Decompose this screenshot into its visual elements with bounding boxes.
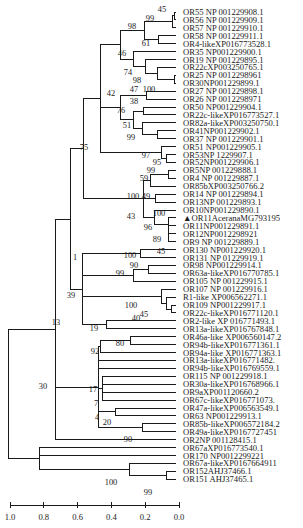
bootstrap-value: 100	[127, 192, 140, 201]
bootstrap-value: 47	[130, 85, 138, 94]
axis-tick-label: 0.6	[72, 512, 83, 522]
bootstrap-value: 49	[142, 192, 150, 201]
tree-branches	[8, 12, 176, 479]
bootstrap-value: 98	[133, 76, 141, 85]
bootstrap-value: 13	[52, 318, 60, 327]
bootstrap-value: 100	[105, 478, 118, 487]
bootstrap-value: 100	[153, 209, 166, 218]
bootstrap-value: 99	[146, 14, 154, 23]
bootstrap-value: 7	[94, 399, 98, 408]
bootstrap-value: 80	[116, 339, 124, 348]
scale-axis: 1.00.80.60.40.20.0	[5, 502, 185, 522]
bootstrap-value: 97	[142, 151, 150, 160]
bootstrap-value: 100	[124, 251, 137, 260]
bootstrap-labels: 4599986146749810042473876519997957599594…	[39, 5, 166, 497]
phylogenetic-tree: OR55 NP 001229908.1OR56 NP 001229909.1OR…	[0, 0, 303, 528]
bootstrap-value: 61	[142, 39, 150, 48]
bootstrap-value: 100	[143, 85, 156, 94]
bootstrap-value: 92	[91, 347, 99, 356]
bootstrap-value: 96	[144, 223, 152, 232]
bootstrap-value: 45	[140, 310, 148, 319]
leaf-labels: OR55 NP 001229908.1OR56 NP 001229909.1OR…	[183, 7, 281, 484]
bootstrap-value: 99	[144, 488, 152, 497]
bootstrap-value: 45	[158, 5, 166, 14]
bootstrap-value: 90	[124, 435, 132, 444]
axis-tick-label: 0.4	[106, 512, 117, 522]
bootstrap-value: 90	[130, 261, 138, 270]
bootstrap-value: 100	[125, 301, 138, 310]
bootstrap-value: 98	[128, 22, 136, 31]
bootstrap-value: 40	[132, 314, 140, 323]
bootstrap-value: 74	[124, 68, 133, 77]
bootstrap-value: 4	[95, 413, 100, 422]
bootstrap-value: 76	[117, 106, 125, 115]
bootstrap-value: 51	[123, 121, 131, 130]
bootstrap-value: 38	[130, 97, 138, 106]
axis-tick-label: 0.8	[38, 512, 49, 522]
bootstrap-value: 30	[39, 382, 47, 391]
bootstrap-value: 39	[67, 291, 75, 300]
bootstrap-value: 20	[103, 418, 111, 427]
bootstrap-value: 75	[80, 143, 88, 152]
bootstrap-value: 59	[140, 174, 148, 183]
bootstrap-value: 1	[73, 253, 77, 262]
axis-tick-label: 1.0	[5, 512, 16, 522]
bootstrap-value: 45	[157, 247, 165, 256]
bootstrap-value: 19	[90, 324, 98, 333]
leaf-label: OR151 AHJ37465.1	[183, 474, 253, 484]
bootstrap-value: 99	[116, 269, 124, 278]
axis-tick-label: 0.2	[140, 512, 151, 522]
bootstrap-value: 43	[127, 212, 135, 221]
bootstrap-value: 42	[107, 89, 115, 98]
bootstrap-value: 17	[89, 385, 97, 394]
bootstrap-value: 46	[118, 49, 126, 58]
axis-tick-label: 0.0	[174, 512, 185, 522]
bootstrap-value: 99	[127, 133, 135, 142]
bootstrap-value: 89	[153, 235, 161, 244]
